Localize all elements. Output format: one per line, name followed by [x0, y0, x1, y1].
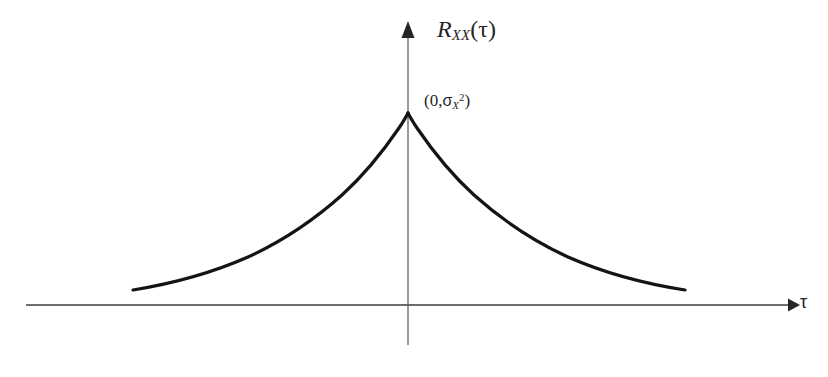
y-axis-label-symbol: R: [437, 16, 452, 42]
y-axis-label: RXX(τ): [437, 17, 496, 43]
autocorrelation-figure: RXX(τ) (0,σX2) τ: [0, 0, 828, 377]
peak-x-value: 0,: [430, 91, 443, 110]
y-axis-label-argument: (τ): [470, 16, 496, 42]
plot-canvas: [0, 0, 828, 377]
peak-annotation-label: (0,σX2): [424, 92, 470, 111]
sigma-subscript: X: [452, 99, 459, 111]
x-axis-label: τ: [800, 293, 807, 311]
curve-left-branch: [133, 113, 408, 290]
peak-close-paren: ): [464, 91, 470, 110]
y-axis-arrowhead: [402, 21, 415, 38]
curve-right-branch: [408, 113, 685, 290]
y-axis-label-subscript: XX: [452, 27, 471, 43]
x-axis-arrowhead: [788, 299, 800, 312]
sigma-symbol: σ: [442, 92, 452, 109]
